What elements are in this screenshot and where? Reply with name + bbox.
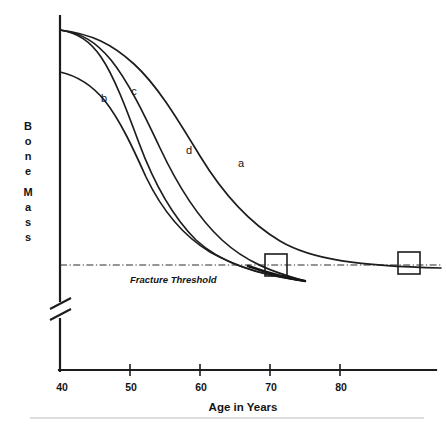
y-axis-group: [50, 16, 71, 371]
x-tick-label: 40: [56, 381, 68, 393]
series-convergent-tail: [248, 266, 305, 281]
series-label-b: b: [101, 92, 107, 104]
y-title-letter: B: [24, 120, 32, 132]
x-tick-label: 70: [265, 381, 277, 393]
x-tick-label: 60: [195, 381, 207, 393]
x-tick-label: 80: [335, 381, 347, 393]
series-label-c: c: [131, 85, 137, 97]
series-label-a: a: [238, 157, 245, 169]
x-axis-title: Age in Years: [209, 401, 278, 413]
series-curve-c: [60, 30, 305, 281]
x-tick-label: 50: [125, 381, 137, 393]
y-title-letter: a: [25, 201, 32, 213]
y-title-letter: o: [25, 135, 32, 147]
series-curve-b: [60, 72, 305, 281]
chart-canvas: B o n e M a s s 40 50 60 70 80 Age in Ye…: [0, 0, 446, 426]
fracture-threshold-label: Fracture Threshold: [130, 274, 217, 285]
crossing-marker-box-age-80: [398, 252, 420, 274]
y-title-letter: M: [23, 186, 32, 198]
x-axis-group: [59, 364, 436, 376]
y-title-letter: n: [25, 150, 32, 162]
series-curve-d: [60, 30, 305, 281]
y-title-letter: e: [25, 165, 31, 177]
x-axis-tick-labels: 40 50 60 70 80: [56, 381, 347, 393]
series-curve-a: [60, 30, 441, 268]
series-curves: [60, 30, 441, 281]
y-title-letter: s: [25, 231, 31, 243]
series-label-d: d: [186, 144, 192, 156]
y-axis-title: B o n e M a s s: [23, 120, 32, 243]
y-title-letter: s: [25, 216, 31, 228]
bone-mass-vs-age-chart: B o n e M a s s 40 50 60 70 80 Age in Ye…: [0, 0, 446, 426]
